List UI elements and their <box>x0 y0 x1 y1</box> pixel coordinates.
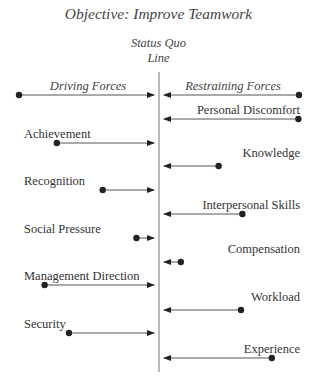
restraining-force-label: Experience <box>244 342 301 356</box>
driving-force-label: Social Pressure <box>24 222 101 236</box>
restraining-force-label: Personal Discomfort <box>197 103 301 117</box>
driving-force-dot <box>100 187 106 193</box>
driving-header-dot <box>16 92 22 98</box>
driving-force-label: Management Direction <box>24 269 140 283</box>
restraining-forces-header: Restraining Forces <box>184 79 281 93</box>
restraining-header-dot <box>296 92 302 98</box>
restraining-force-label: Workload <box>251 290 301 304</box>
driving-force-dot <box>66 330 72 336</box>
driving-force-label: Achievement <box>24 127 91 141</box>
driving-force-label: Security <box>24 317 66 331</box>
restraining-force-label: Compensation <box>228 242 301 256</box>
driving-force-dot <box>133 235 139 241</box>
restraining-force-label: Interpersonal Skills <box>202 198 300 212</box>
driving-force-label: Recognition <box>24 174 86 188</box>
driving-forces-header: Driving Forces <box>49 79 126 93</box>
restraining-force-dot <box>238 307 244 313</box>
restraining-force-dot <box>178 259 184 265</box>
force-field-diagram: Driving ForcesRestraining ForcesAchievem… <box>0 0 317 376</box>
restraining-force-label: Knowledge <box>242 146 300 160</box>
restraining-force-dot <box>215 163 221 169</box>
